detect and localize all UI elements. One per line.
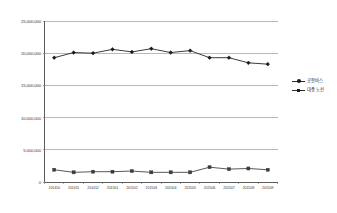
x-axis-tick-label: 201412 bbox=[87, 186, 98, 190]
y-axis-tick-label: 5,000,000 bbox=[0, 147, 41, 152]
x-axis-tick-label: 201502 bbox=[126, 186, 137, 190]
x-axis-tick-label: 201504 bbox=[165, 186, 176, 190]
chart-legend: 공항버스 대중 노선 bbox=[292, 77, 337, 95]
legend-label-0: 공항버스 bbox=[307, 79, 323, 83]
y-axis-tick-label: 20,000,000 bbox=[0, 51, 41, 56]
x-axis-tick-label: 201503 bbox=[146, 186, 157, 190]
x-axis-tick-label: 201506 bbox=[204, 186, 215, 190]
y-axis-tick-label: 10,000,000 bbox=[0, 115, 41, 120]
x-axis-tick-label: 201505 bbox=[184, 186, 195, 190]
x-axis-tick-label: 201501 bbox=[107, 186, 118, 190]
legend-marker-diamond-icon bbox=[292, 78, 305, 85]
y-axis-tick-label: 15,000,000 bbox=[0, 83, 41, 88]
legend-item-0[interactable]: 공항버스 bbox=[292, 77, 337, 86]
chart-plot-area bbox=[0, 0, 337, 213]
x-axis-tick-label: 201410 bbox=[49, 186, 60, 190]
y-axis-tick-label: 25,000,000 bbox=[0, 19, 41, 24]
chart-container: 25,000,00020,000,00015,000,00010,000,000… bbox=[0, 0, 337, 213]
legend-item-1[interactable]: 대중 노선 bbox=[292, 86, 337, 95]
x-axis-tick-label: 201411 bbox=[68, 186, 79, 190]
data-series-layer bbox=[52, 47, 269, 174]
axis-lines bbox=[45, 21, 278, 182]
y-axis-tick-label: 0 bbox=[0, 180, 41, 185]
x-axis-tick-label: 201507 bbox=[223, 186, 234, 190]
legend-marker-square-icon bbox=[292, 87, 305, 94]
x-axis-tick-label: 201509 bbox=[262, 186, 273, 190]
gridlines bbox=[45, 21, 278, 150]
x-axis-tick-label: 201508 bbox=[243, 186, 254, 190]
legend-label-1: 대중 노선 bbox=[307, 88, 324, 92]
